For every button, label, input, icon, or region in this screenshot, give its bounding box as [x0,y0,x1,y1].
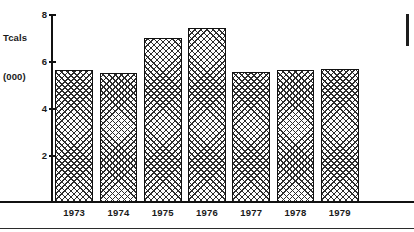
y-axis-title-line-2: (000) [3,70,27,83]
x-axis-label-1973: 1973 [52,206,96,220]
bar-1977 [232,72,270,202]
bar-1978 [277,70,315,202]
y-axis-tick-label-2: 2 [42,150,47,162]
plot-area [52,14,362,202]
x-axis-baseline [0,201,414,203]
y-axis-tick-label-8: 8 [42,9,47,21]
y-axis-tick-label-6: 6 [42,56,47,68]
bar-chart-figure: Tcals (000) 8 6 4 2 19731974197519761977… [0,0,414,232]
y-axis-title: Tcals (000) [3,5,27,109]
bar-1973 [55,70,93,202]
page-edge-artifact [406,14,409,46]
x-axis-label-1977: 1977 [229,206,273,220]
x-axis-label-1976: 1976 [185,206,229,220]
bar-1976 [188,28,226,202]
bar-1975 [144,38,182,203]
x-axis-label-1979: 1979 [318,206,362,220]
x-axis-label-1975: 1975 [141,206,185,220]
x-axis-label-1974: 1974 [96,206,140,220]
figure-bottom-rule [0,228,414,229]
x-axis-labels: 1973197419751976197719781979 [52,206,362,222]
bar-1979 [321,69,359,202]
bar-1974 [100,73,138,202]
y-axis-title-line-1: Tcals [3,31,27,44]
y-axis-tick-label-4: 4 [42,103,47,115]
x-axis-label-1978: 1978 [273,206,317,220]
